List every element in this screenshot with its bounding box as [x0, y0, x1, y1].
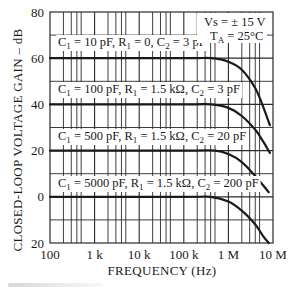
- curve-label-text: C1 = 10 pF, R1 = 0, C2 = 3 pF: [58, 35, 206, 51]
- y-axis-ticks: 80604020020: [31, 5, 44, 251]
- curve-label-text: C1 = 500 pF, R1 = 1.5 kΩ, C2 = 20 pF: [58, 129, 246, 145]
- x-tick-label: 1 M: [218, 247, 240, 262]
- x-axis-title: FREQUENCY (Hz): [108, 263, 217, 278]
- condition-annotations: Vs = ± 15 VTA = 25°C: [197, 13, 267, 45]
- y-tick-label: 60: [31, 51, 44, 66]
- x-tick-label: 1 k: [86, 247, 103, 262]
- x-tick-label: 10 k: [128, 247, 151, 262]
- figure-caption-faded: [8, 283, 103, 287]
- curve-label-3: C1 = 500 pF, R1 = 1.5 kΩ, C2 = 20 pF: [56, 129, 248, 145]
- gain-vs-frequency-chart: C1 = 10 pF, R1 = 0, C2 = 3 pFC1 = 100 pF…: [0, 0, 295, 291]
- curve-label-2: C1 = 100 pF, R1 = 1.5 kΩ, C2 = 3 pF: [56, 82, 242, 98]
- y-tick-label: 40: [31, 97, 44, 112]
- curve-label-1: C1 = 10 pF, R1 = 0, C2 = 3 pF: [56, 35, 208, 51]
- x-tick-label: 100 k: [169, 247, 199, 262]
- x-tick-label: 100: [40, 247, 60, 262]
- curve-label-text: C1 = 100 pF, R1 = 1.5 kΩ, C2 = 3 pF: [58, 82, 240, 98]
- y-tick-label: 20: [31, 143, 44, 158]
- x-tick-label: 10 M: [259, 247, 287, 262]
- y-tick-label: 0: [38, 189, 45, 204]
- conditions-box: Vs = ± 15 VTA = 25°C: [197, 13, 267, 45]
- curve-label-4: C1 = 5000 pF, R1 = 1.5 kΩ, C2 = 200 pF: [56, 176, 261, 192]
- curve-label-text: C1 = 5000 pF, R1 = 1.5 kΩ, C2 = 200 pF: [58, 176, 259, 192]
- y-axis-title: CLOSED-LOOP VOLTAGE GAIN – dB: [10, 28, 25, 251]
- supply-voltage-label: Vs = ± 15 V: [204, 15, 266, 29]
- x-axis-ticks: 1001 k10 k100 k1 M10 M: [40, 247, 287, 262]
- y-tick-label: 80: [31, 5, 44, 20]
